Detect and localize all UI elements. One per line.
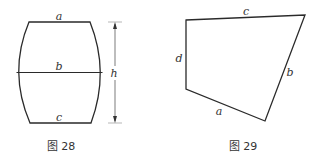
figure-29: c d b a 图 29: [175, 5, 305, 153]
label-c-fig29: c: [243, 5, 249, 18]
caption-fig29: 图 29: [229, 140, 258, 153]
label-a-fig28: a: [56, 10, 63, 23]
label-b-fig29: b: [286, 66, 293, 79]
arrow-up-icon: [113, 22, 117, 29]
diagram-canvas: a b c h 图 28 c d b a 图 29: [0, 0, 323, 165]
label-a-fig29: a: [216, 105, 223, 118]
label-c-fig28: c: [56, 111, 62, 124]
label-h-fig28: h: [110, 67, 117, 80]
caption-fig28: 图 28: [47, 140, 76, 153]
label-d-fig29: d: [175, 52, 182, 65]
figure-28: a b c h 图 28: [17, 10, 123, 153]
label-b-fig28: b: [55, 60, 62, 73]
arrow-down-icon: [113, 116, 117, 123]
